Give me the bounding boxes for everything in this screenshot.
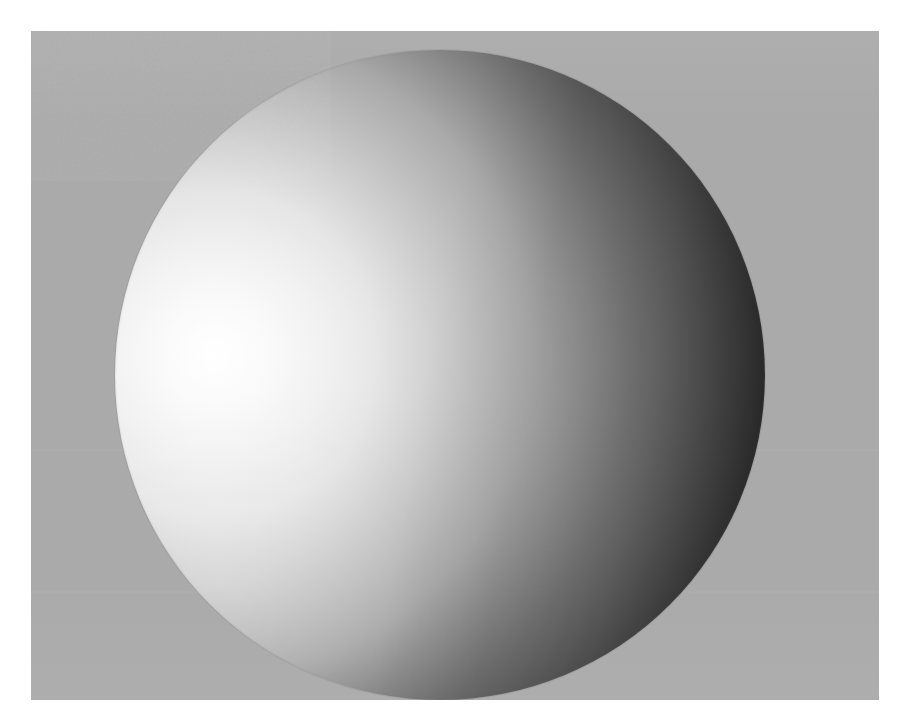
- sphere-limb-softening: [114, 49, 766, 700]
- sphere-clip-region: [31, 31, 879, 700]
- gray-backdrop-plane: [31, 31, 879, 700]
- shaded-sphere: [115, 50, 765, 700]
- image-viewport: [0, 0, 913, 723]
